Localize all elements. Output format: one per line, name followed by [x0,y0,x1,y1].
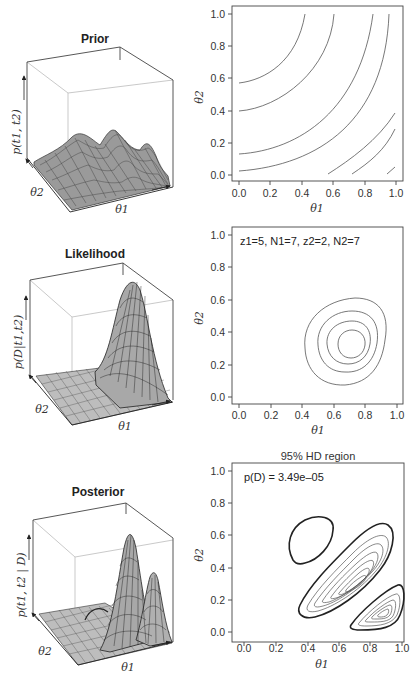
likelihood-contour-ylabel: θ2 [193,311,206,325]
prior-ylabel: θ2 [30,186,44,199]
figure-canvas: Prior p(t1, t2) θ2 θ1 [0,0,420,687]
svg-text:0.6: 0.6 [332,642,347,654]
svg-text:1.0: 1.0 [395,642,410,654]
prior-surface-plot: Prior p(t1, t2) θ2 θ1 [10,32,173,216]
svg-text:0.0: 0.0 [210,626,225,638]
posterior-ylabel: θ2 [38,645,52,658]
prior-contour-ylabel: θ2 [193,90,206,104]
svg-text:0.0: 0.0 [237,642,252,654]
svg-text:1.0: 1.0 [389,187,404,199]
svg-text:0.4: 0.4 [210,105,225,117]
likelihood-title: Likelihood [65,247,125,261]
svg-text:0.6: 0.6 [210,529,225,541]
posterior-surface-plot: Posterior p( [15,485,173,674]
likelihood-contour-xlabel: θ1 [311,424,325,437]
svg-text:0.8: 0.8 [358,409,373,421]
svg-text:0.8: 0.8 [358,187,373,199]
svg-text:1.0: 1.0 [390,409,405,421]
likelihood-surface-plot: Likelihood p(D|t1,t2) θ2 θ1 [12,247,173,433]
svg-text:0.6: 0.6 [327,409,342,421]
prior-zlabel: p(t1, t2) [10,109,23,154]
svg-text:0.8: 0.8 [210,497,225,509]
svg-text:0.0: 0.0 [210,169,225,181]
svg-text:0.0: 0.0 [232,409,247,421]
svg-text:0.4: 0.4 [295,187,310,199]
posterior-annotation: p(D) = 3.49e–05 [244,471,324,483]
svg-text:0.0: 0.0 [232,187,247,199]
svg-text:0.4: 0.4 [301,642,316,654]
prior-xlabel: θ1 [115,203,129,216]
prior-contour-plot: 1.00.8 0.60.4 0.20.0 0.00.2 0.40.6 0.81.… [193,6,403,215]
svg-text:0.6: 0.6 [326,187,341,199]
posterior-zlabel: p(t1, t2 | D) [15,553,29,618]
svg-text:0.8: 0.8 [210,40,225,52]
posterior-xlabel: θ1 [121,661,135,674]
likelihood-contour-lines [305,298,386,385]
likelihood-contour-plot: 1.00.8 0.60.4 0.20.0 0.00.2 0.40.6 0.81.… [193,227,404,437]
prior-contour-xlabel: θ1 [310,202,324,215]
prior-contour-lines [239,14,395,174]
svg-text:0.6: 0.6 [210,72,225,84]
prior-title: Prior [81,32,109,46]
likelihood-ylabel: θ2 [35,403,49,416]
svg-text:0.2: 0.2 [210,359,225,371]
svg-text:0.6: 0.6 [210,294,225,306]
svg-text:0.2: 0.2 [210,137,225,149]
likelihood-zlabel: p(D|t1,t2) [12,315,26,369]
likelihood-annotation: z1=5, N1=7, z2=2, N2=7 [240,235,360,247]
svg-text:0.2: 0.2 [264,409,279,421]
svg-text:0.2: 0.2 [269,642,284,654]
posterior-contour-lines [289,517,404,630]
likelihood-xlabel: θ1 [118,420,132,433]
posterior-contour-ylabel: θ2 [193,548,206,562]
svg-text:1.0: 1.0 [210,229,225,241]
svg-text:0.4: 0.4 [210,562,225,574]
svg-text:1.0: 1.0 [210,465,225,477]
svg-text:1.0: 1.0 [210,8,225,20]
svg-text:0.8: 0.8 [363,642,378,654]
svg-text:0.8: 0.8 [210,261,225,273]
posterior-contour-xlabel: θ1 [315,658,329,671]
svg-text:0.0: 0.0 [210,391,225,403]
posterior-title: Posterior [72,485,125,499]
svg-text:0.2: 0.2 [210,594,225,606]
svg-text:0.4: 0.4 [295,409,310,421]
posterior-contour-title: 95% HD region [281,450,356,462]
svg-text:0.2: 0.2 [263,187,278,199]
svg-text:0.4: 0.4 [210,326,225,338]
posterior-contour-plot: 95% HD region 1.00.8 0.60.4 0.20.0 0.00.… [193,450,409,671]
